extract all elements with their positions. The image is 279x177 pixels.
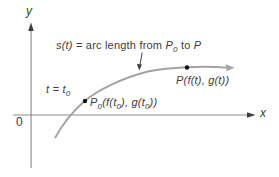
annotation-p0: P: [165, 39, 173, 51]
parametric-curve-figure: y x 0 s(t) = arc length from P0 to P t =…: [0, 0, 279, 177]
p0-args-1: (f(t: [102, 96, 116, 108]
y-axis-arrowhead-icon: [28, 23, 34, 32]
annotation-p: P: [194, 39, 202, 51]
point-p0-label: P0(f(t0), g(t0)): [90, 96, 157, 109]
p0-base: P: [90, 96, 98, 108]
x-axis-label: x: [260, 107, 266, 121]
figure-canvas: [0, 0, 279, 177]
annotation-to: to: [178, 39, 194, 51]
p0-args-3: )): [150, 96, 158, 108]
annotation-text: = arc length from: [73, 39, 166, 51]
y-axis-label: y: [26, 5, 32, 19]
point-p0-dot: [83, 99, 87, 103]
t-equals-t0-label: t = t0: [46, 83, 70, 96]
p0-subscript: 0: [98, 102, 103, 111]
curve-arrowhead-icon: [226, 64, 235, 71]
annotation-p0-subscript: 0: [173, 45, 178, 54]
t-label-subscript: 0: [66, 89, 71, 98]
point-p-dot: [185, 65, 189, 69]
p0-t0-subscript-1: 0: [116, 102, 121, 111]
t-label-base: t = t: [46, 83, 66, 95]
annotation-s-of-t: s(t): [56, 39, 73, 51]
annotation-arrow-line: [140, 53, 142, 66]
p0-args-2: ), g(t: [121, 96, 145, 108]
p0-t0-subscript-2: 0: [145, 102, 150, 111]
origin-label: 0: [16, 116, 23, 130]
x-axis-arrowhead-icon: [247, 112, 256, 118]
annotation-arrow-head-icon: [137, 64, 142, 71]
point-p-label: P(f(t), g(t)): [176, 74, 229, 87]
arc-length-annotation: s(t) = arc length from P0 to P: [56, 39, 201, 52]
